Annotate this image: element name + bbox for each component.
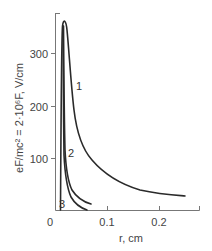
y-axis-title: eF/mc² = 2·10⁶F, V/cm: [13, 63, 25, 173]
x-axis-title: r, cm: [119, 232, 143, 244]
curve-1-label: 1: [76, 80, 82, 92]
curve-2: [64, 26, 92, 204]
x-tick-label-0.2: 0.2: [151, 216, 166, 228]
y-tick-label-300: 300: [30, 48, 48, 60]
curve-1: [61, 21, 186, 210]
y-tick-label-100: 100: [30, 153, 48, 165]
curves: [61, 21, 186, 210]
y-tick-label-200: 200: [30, 101, 48, 113]
curve-3-label: 3: [59, 198, 65, 210]
axes: [51, 13, 200, 211]
curve-2-label: 2: [68, 147, 74, 159]
x-tick-label-0.1: 0.1: [99, 216, 114, 228]
chart: 300 200 100 0 0.1 0.2 r, cm eF/mc² = 2·1…: [0, 0, 212, 251]
x-tick-label-0: 0: [47, 216, 53, 228]
